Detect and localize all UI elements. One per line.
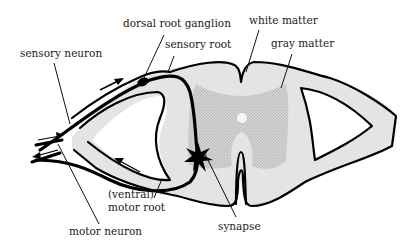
label-synapse: synapse: [218, 220, 261, 232]
label-motor-root: motor root: [108, 201, 166, 213]
label-dorsal-root-ganglion: dorsal root ganglion: [123, 17, 231, 29]
label-white-matter: white matter: [249, 14, 319, 26]
label-motor-neuron: motor neuron: [69, 225, 142, 237]
label-sensory-neuron: sensory neuron: [20, 47, 102, 59]
label-ventral-prefix: (ventral): [108, 188, 154, 200]
label-sensory-root: sensory root: [165, 38, 232, 50]
leader-sensory-neuron: [54, 63, 70, 124]
label-gray-matter: gray matter: [271, 37, 335, 49]
peripheral-sensory-arrow: [38, 132, 64, 140]
central-canal: [237, 113, 247, 123]
spinal-cord-diagram: dorsal root ganglion sensory root white …: [0, 0, 410, 247]
sensory-direction-arrow: [100, 78, 124, 90]
